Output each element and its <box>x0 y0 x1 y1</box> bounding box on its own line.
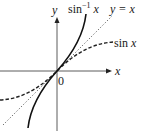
y-axis-label: y <box>52 4 57 16</box>
sin-var: x <box>131 36 136 50</box>
sin-base: sin <box>114 36 128 50</box>
x-axis-label: x <box>115 65 120 77</box>
graph-canvas <box>0 0 146 131</box>
arcsin-label: sin−1 x <box>68 2 99 15</box>
x-axis-arrow-icon <box>106 69 112 74</box>
y-axis-arrow-icon <box>55 17 60 23</box>
origin-label: 0 <box>58 75 64 87</box>
arcsin-var: x <box>94 2 99 16</box>
identity-label: y = x <box>110 3 135 15</box>
arcsin-exp: −1 <box>82 1 91 10</box>
arcsin-base: sin <box>68 2 82 16</box>
sin-label: sin x <box>114 37 136 49</box>
